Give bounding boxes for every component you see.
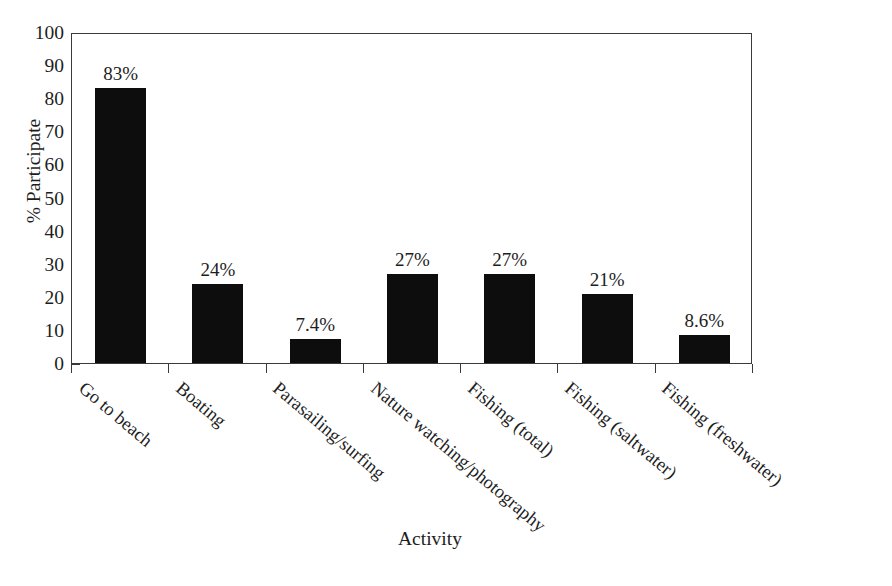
plot-area: 83%24%7.4%27%27%21%8.6% xyxy=(71,33,752,364)
bar xyxy=(387,274,438,363)
bar xyxy=(192,284,243,363)
bar-value-label: 21% xyxy=(590,269,625,291)
x-category-label: Fishing (saltwater) xyxy=(561,378,681,484)
x-axis-ticks xyxy=(71,364,752,376)
y-tick-label: 70 xyxy=(45,121,65,143)
x-category-label: Fishing (freshwater) xyxy=(658,378,787,491)
bar xyxy=(582,294,633,364)
y-tick-label: 60 xyxy=(45,154,65,176)
bar-value-label: 8.6% xyxy=(685,310,725,332)
x-axis-title-container: Activity xyxy=(0,528,892,550)
x-major-tick xyxy=(460,364,461,373)
y-tick-label: 100 xyxy=(35,22,64,44)
x-category-label: Fishing (total) xyxy=(463,378,557,462)
y-tick-label: 30 xyxy=(45,254,65,276)
x-major-tick xyxy=(557,364,558,373)
x-major-tick xyxy=(655,364,656,373)
y-tick-label: 90 xyxy=(45,55,65,77)
bar xyxy=(95,88,146,363)
x-category-label: Nature watching/photography xyxy=(366,378,549,536)
x-axis-title: Activity xyxy=(398,528,462,550)
x-major-tick xyxy=(363,364,364,373)
x-major-tick xyxy=(71,364,72,373)
bar-chart-figure: New Jersey activities along the shore % … xyxy=(0,0,892,586)
x-major-tick xyxy=(168,364,169,373)
y-tick-label: 40 xyxy=(45,221,65,243)
bar xyxy=(484,274,535,363)
y-tick-label: 0 xyxy=(54,353,64,375)
y-tick-label: 80 xyxy=(45,88,65,110)
y-tick-label: 20 xyxy=(45,287,65,309)
x-category-label: Go to beach xyxy=(74,378,156,452)
x-major-tick xyxy=(752,364,753,373)
y-tick-label: 10 xyxy=(45,320,65,342)
x-category-label: Parasailing/surfing xyxy=(269,378,390,484)
bar-value-label: 24% xyxy=(201,259,236,281)
y-tick-label: 50 xyxy=(45,188,65,210)
bar-value-label: 7.4% xyxy=(295,314,335,336)
bar xyxy=(290,339,341,363)
x-category-label: Boating xyxy=(171,378,229,432)
x-major-tick xyxy=(266,364,267,373)
bar xyxy=(679,335,730,363)
y-axis-tick-labels: 0102030405060708090100 xyxy=(12,33,64,364)
bar-value-label: 27% xyxy=(492,249,527,271)
bar-value-label: 27% xyxy=(395,249,430,271)
bar-value-label: 83% xyxy=(103,63,138,85)
